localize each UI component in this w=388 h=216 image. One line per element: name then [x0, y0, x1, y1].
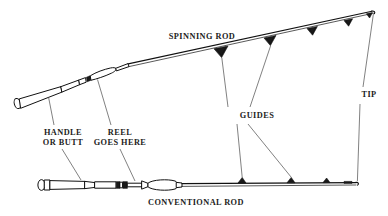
leader-guides-to-spinning-2 — [250, 46, 271, 107]
conventional-rod-reel-seat-band-b — [123, 182, 128, 189]
spinning-rod-guide-4 — [344, 19, 353, 26]
spinning-rod-tip-guide — [366, 13, 372, 18]
leader-guides-to-conventional-1 — [237, 124, 242, 177]
conventional-rod-foregrip — [148, 180, 177, 190]
spinning-rod-group — [13, 11, 375, 109]
leader-guides-to-conventional-2 — [248, 124, 291, 177]
conventional-rod-butt-cap — [38, 180, 45, 191]
conventional-rod-grip-taper — [85, 181, 95, 188]
spinning-rod-ferrule — [116, 64, 129, 71]
conventional-rod-guide-1 — [238, 177, 246, 183]
conventional-rod-tip-nub — [356, 182, 359, 185]
conventional-rod-group — [38, 177, 359, 190]
leader-guides-to-spinning-1 — [222, 58, 228, 107]
label-conventional-rod: CONVENTIONAL ROD — [148, 198, 244, 207]
conventional-rod-guide-2 — [287, 177, 295, 182]
spinning-rod-reel-seat-collar-a — [79, 78, 86, 85]
leader-tip-to-conventional-tip — [357, 104, 360, 181]
spinning-rod-blank-upper-edge — [128, 11, 372, 64]
conventional-rod-butt-collar — [45, 180, 50, 190]
conventional-rod-rear-grip — [50, 181, 85, 190]
spinning-rod-blank-lower-edge — [129, 13, 373, 66]
leader-handle-to-spinning — [49, 97, 55, 125]
label-tip: TIP — [361, 90, 376, 99]
conventional-rod-blank-segment — [128, 183, 142, 187]
conventional-rod-reel-seat-band-a — [116, 182, 120, 189]
conventional-rod-reel-seat-gap — [120, 182, 122, 188]
label-handle-or-butt-line2: OR BUTT — [43, 138, 83, 147]
conventional-rod-ferrule — [177, 182, 182, 187]
rod-diagram-canvas: SPINNING ROD CONVENTIONAL ROD HANDLE OR … — [0, 0, 388, 216]
label-handle-or-butt-line1: HANDLE — [44, 128, 82, 137]
leader-tip-to-spinning-tip — [363, 13, 374, 87]
leader-handle-to-conventional — [62, 149, 81, 180]
label-guides: GUIDES — [240, 111, 275, 120]
conventional-rod-guide-4 — [344, 181, 352, 183]
label-spinning-rod: SPINNING ROD — [169, 32, 235, 41]
fishing-rod-diagram: SPINNING ROD CONVENTIONAL ROD HANDLE OR … — [0, 0, 388, 216]
conventional-rod-foregrip-check — [142, 181, 148, 189]
spinning-rod-rear-grip — [20, 87, 63, 109]
conventional-rod-reel-seat — [95, 182, 116, 188]
conventional-rod-blank-lower-edge — [182, 185, 356, 186]
conventional-rod-guide-3 — [323, 178, 330, 183]
leader-reel-to-spinning — [98, 80, 112, 126]
label-reel-goes-here-line2: GOES HERE — [94, 138, 147, 147]
leader-reel-to-conventional — [120, 149, 135, 181]
label-reel-goes-here-line1: REEL — [108, 128, 132, 137]
spinning-rod-foregrip — [91, 68, 117, 81]
spinning-rod-reel-seat-band — [86, 76, 90, 82]
spinning-rod-grip-taper — [61, 80, 80, 92]
